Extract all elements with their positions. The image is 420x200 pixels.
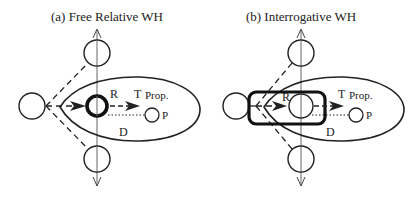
p-node <box>349 108 363 122</box>
left-node <box>223 93 249 119</box>
label-r: R <box>110 87 118 101</box>
label-t: T <box>134 87 142 101</box>
label-p: P <box>162 109 168 121</box>
label-t: T <box>338 87 346 101</box>
dashed-link-top <box>46 63 88 106</box>
label-p: P <box>366 109 372 121</box>
arrow-head-r <box>70 101 86 111</box>
label-r: R <box>282 90 290 104</box>
label-d: D <box>326 125 335 139</box>
label-prop: Prop. <box>145 89 169 101</box>
wh-diagram: (a) Free Relative WH R T Prop. P <box>0 0 420 200</box>
p-node <box>145 108 159 122</box>
label-prop: Prop. <box>349 89 373 101</box>
panel-a: (a) Free Relative WH R T Prop. P <box>19 9 200 186</box>
panel-b-title: (b) Interrogative WH <box>246 9 356 24</box>
panel-a-title: (a) Free Relative WH <box>51 9 163 24</box>
left-node <box>19 93 45 119</box>
label-d: D <box>119 125 128 139</box>
dashed-link-bottom <box>256 106 292 149</box>
panel-b: (b) Interrogative WH R T <box>223 9 404 186</box>
